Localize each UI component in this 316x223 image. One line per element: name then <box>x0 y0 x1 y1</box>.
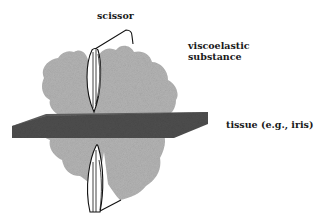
label-tissue: tissue (e.g., iris) <box>226 119 313 130</box>
label-viscoelastic-line1: viscoelastic <box>188 40 250 51</box>
viscoelastic-upper <box>42 46 178 116</box>
scissor-lower-connector <box>100 200 121 211</box>
label-viscoelastic-substance: viscoelastic substance <box>188 40 250 62</box>
viscoelastic-lower <box>41 130 165 200</box>
label-viscoelastic-line2: substance <box>188 51 250 62</box>
scissor-upper-connector <box>95 30 133 49</box>
diagram-svg <box>0 0 316 223</box>
diagram-canvas: scissor viscoelastic substance tissue (e… <box>0 0 316 223</box>
label-scissor: scissor <box>97 10 134 21</box>
